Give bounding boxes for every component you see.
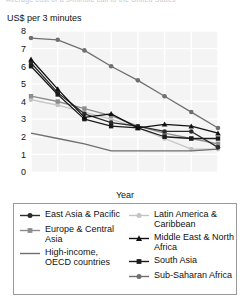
data-point-marker <box>162 94 167 99</box>
legend-swatch-circle-icon <box>128 271 150 282</box>
data-point-marker <box>216 126 221 131</box>
data-point-marker <box>189 110 194 115</box>
data-point-marker <box>56 92 60 96</box>
x-axis-title: Year <box>0 190 250 200</box>
data-point-marker <box>189 136 193 140</box>
x-axis-tick-label: 2000 <box>101 176 121 178</box>
legend-item[interactable]: Sub-Saharan Africa <box>128 270 236 282</box>
legend-item-label: Latin America & Caribbean <box>154 209 236 229</box>
y-axis-tick-label: 4 <box>21 97 26 107</box>
line-chart-svg: 0123456781997199819992000200120022003200… <box>0 26 250 178</box>
x-axis-tick-label: 2001 <box>128 176 148 178</box>
data-point-marker <box>55 38 60 43</box>
chart-figure: Average cost of a 3-minute call to the U… <box>0 0 250 305</box>
y-axis-tick-label: 5 <box>21 79 26 89</box>
data-point-marker <box>82 48 87 53</box>
legend-item[interactable]: East Asia & Pacific <box>19 209 123 221</box>
data-point-marker <box>189 129 194 134</box>
legend-swatch-square-icon <box>19 225 41 236</box>
data-point-marker <box>162 129 167 134</box>
x-axis-tick-label: 1999 <box>74 176 94 178</box>
legend-item[interactable]: South Asia <box>128 255 236 267</box>
legend-swatch-circle-icon <box>19 210 41 221</box>
x-axis-tick-label: 2002 <box>155 176 175 178</box>
y-axis-tick-label: 8 <box>21 26 26 36</box>
legend-item-label: Europe & Central Asia <box>45 224 123 244</box>
data-point-marker <box>136 78 141 83</box>
data-point-marker <box>216 145 221 150</box>
data-point-marker <box>56 99 60 103</box>
legend-item[interactable]: Europe & Central Asia <box>19 224 123 244</box>
plot-area: 0123456781997199819992000200120022003200… <box>0 26 250 178</box>
y-axis-tick-label: 2 <box>21 132 26 142</box>
legend-item[interactable]: High-income, OECD countries <box>19 247 123 267</box>
cropped-chart-title-text: Average cost of a 3-minute call to the U… <box>6 0 244 4</box>
x-axis-tick-label: 1997 <box>21 176 41 178</box>
y-axis-tick-label: 3 <box>21 114 26 124</box>
legend-item-label: East Asia & Pacific <box>45 209 120 219</box>
data-point-marker <box>29 64 33 68</box>
y-axis-tick-label: 1 <box>21 150 26 160</box>
data-point-marker <box>162 135 166 139</box>
x-axis-tick-label: 1998 <box>48 176 68 178</box>
legend-item-label: High-income, OECD countries <box>45 247 123 267</box>
legend-column-left: East Asia & PacificEurope & Central Asia… <box>14 204 123 294</box>
data-point-marker <box>29 94 33 98</box>
data-point-marker <box>109 64 114 69</box>
y-axis-unit-label: US$ per 3 minutes <box>7 13 82 24</box>
data-point-marker <box>216 136 220 140</box>
data-point-marker <box>82 106 86 110</box>
cropped-chart-title: Average cost of a 3-minute call to the U… <box>6 0 244 8</box>
data-point-marker <box>109 124 113 128</box>
legend-item[interactable]: Middle East & North Africa <box>128 232 236 252</box>
legend-swatch-triangle-icon <box>128 233 150 244</box>
x-axis-tick-label: 2004 <box>208 176 228 178</box>
legend-swatch-none-icon <box>19 248 41 259</box>
legend-swatch-circle-icon <box>128 210 150 221</box>
legend-swatch-square-icon <box>128 256 150 267</box>
y-axis-tick-label: 7 <box>21 44 26 54</box>
data-point-marker <box>29 36 34 41</box>
legend-item-label: Sub-Saharan Africa <box>154 270 232 280</box>
legend-item[interactable]: Latin America & Caribbean <box>128 209 236 229</box>
legend-item-label: Middle East & North Africa <box>154 232 236 252</box>
chart-legend: East Asia & PacificEurope & Central Asia… <box>13 203 237 295</box>
legend-column-right: Latin America & CaribbeanMiddle East & N… <box>123 204 236 294</box>
x-axis-tick-label: 2003 <box>181 176 201 178</box>
legend-item-label: South Asia <box>154 255 197 265</box>
y-axis-tick-label: 6 <box>21 62 26 72</box>
